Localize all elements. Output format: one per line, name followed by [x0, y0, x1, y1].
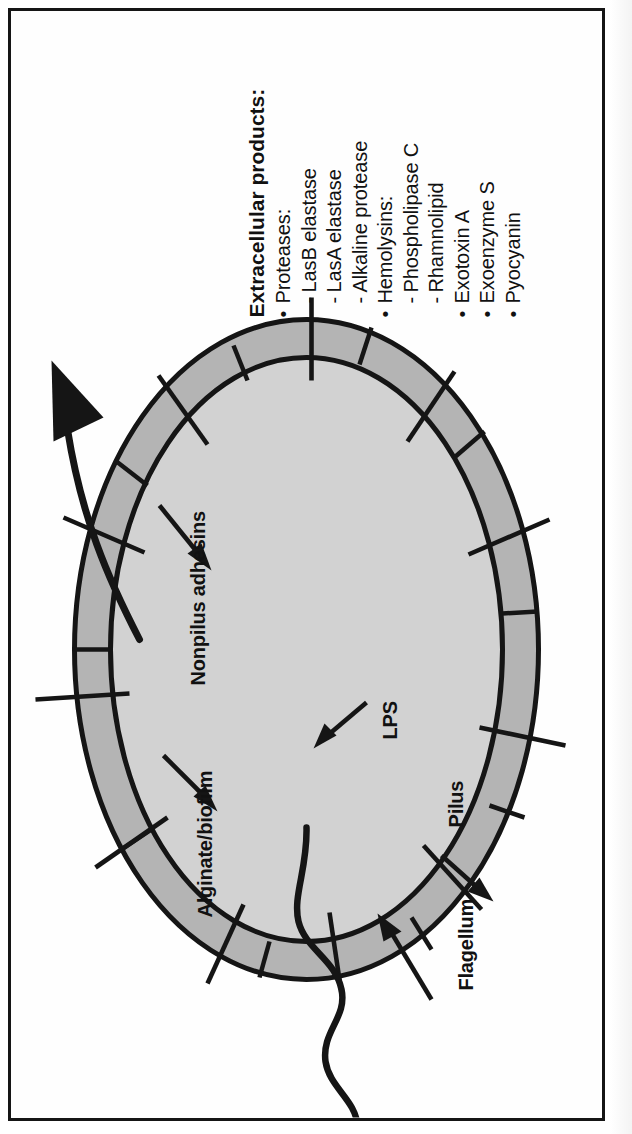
extracellular-product-item: Hemolysins:: [373, 17, 399, 317]
extracellular-products-heading: Extracellular products:: [244, 17, 269, 317]
label-alginate-biofilm: Alginate/biofilm: [194, 770, 217, 917]
extracellular-product-item: LasB elastase: [296, 17, 322, 317]
label-lps: LPS: [379, 701, 402, 739]
figure-page: Pilus LPS Flagellum Nonpilus adhesins Al…: [0, 0, 632, 1134]
rotated-diagram-frame: Pilus LPS Flagellum Nonpilus adhesins Al…: [12, 12, 602, 1117]
extracellular-product-item: Exotoxin A: [449, 17, 475, 317]
extracellular-product-item: Proteases:: [271, 17, 297, 317]
extracellular-product-item: Alkaline protease: [347, 17, 373, 317]
extracellular-products-list: Proteases:LasB elastaseLasA elastaseAlka…: [271, 17, 526, 317]
extracellular-product-item: Rhamnolipid: [424, 17, 450, 317]
extracellular-product-item: Pyocyanin: [500, 17, 526, 317]
extracellular-product-item: LasA elastase: [322, 17, 348, 317]
label-nonpilus-adhesins: Nonpilus adhesins: [187, 511, 210, 685]
extracellular-product-item: Phospholipase C: [398, 17, 424, 317]
figure-frame-border: Pilus LPS Flagellum Nonpilus adhesins Al…: [8, 8, 605, 1121]
extracellular-product-item: Exoenzyme S: [475, 17, 501, 317]
extracellular-products-block: Extracellular products: Proteases:LasB e…: [244, 17, 526, 317]
scan-edge-shadow: [610, 0, 632, 1134]
label-flagellum: Flagellum: [455, 898, 478, 990]
label-pilus: Pilus: [445, 780, 468, 827]
